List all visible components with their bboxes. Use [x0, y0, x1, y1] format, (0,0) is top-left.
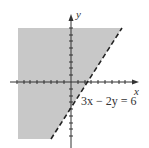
x-axis-arrow-icon — [132, 80, 139, 85]
y-axis-arrow-icon — [69, 14, 74, 21]
inequality-graph — [0, 0, 149, 148]
shaded-region — [18, 28, 122, 139]
y-axis-label: y — [76, 8, 81, 20]
equation-label: 3x − 2y = 6 — [81, 94, 137, 109]
